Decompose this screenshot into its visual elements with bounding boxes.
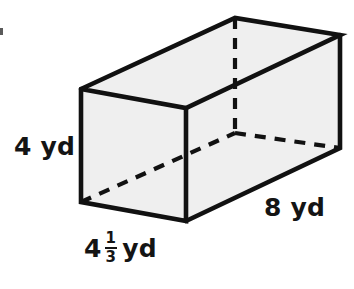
- width-fraction-denominator: 3: [105, 250, 118, 265]
- width-unit: yd: [122, 236, 157, 261]
- width-whole-number: 4: [84, 236, 102, 261]
- prism-front-face: [81, 89, 186, 221]
- depth-dimension-label: 8 yd: [264, 195, 325, 220]
- height-dimension-label: 4 yd: [14, 134, 75, 159]
- rectangular-prism-figure: 4 yd 8 yd 4 1 3 yd: [0, 0, 354, 289]
- width-fraction-numerator: 1: [105, 231, 118, 246]
- width-fraction: 1 3: [105, 231, 118, 266]
- width-dimension-label: 4 1 3 yd: [84, 231, 157, 266]
